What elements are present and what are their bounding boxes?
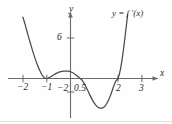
x-tick-label-minus1: −1 <box>41 83 52 93</box>
x-tick-label-half: 0.5 <box>74 84 86 94</box>
y-axis-label: y <box>69 5 73 15</box>
x-axis-arrow-icon <box>153 76 159 81</box>
x-tick-label-2: 2 <box>116 84 121 94</box>
x-tick-label-3: 3 <box>139 84 144 94</box>
curve-annotation-label: y = f ′(x) <box>112 9 143 18</box>
x-tick-label-minus2: −2 <box>17 83 28 93</box>
y-tick-label-6: 6 <box>57 33 62 43</box>
derivative-graph-plot <box>0 0 172 124</box>
curve-derivative <box>23 14 128 108</box>
x-axis-label: x <box>160 69 164 79</box>
chart-figure: −2 −1 0.5 2 3 6 −2 y x y = f ′(x) <box>0 0 172 124</box>
y-tick-label-minus2: −2 <box>57 84 68 94</box>
y-axis <box>67 12 74 118</box>
